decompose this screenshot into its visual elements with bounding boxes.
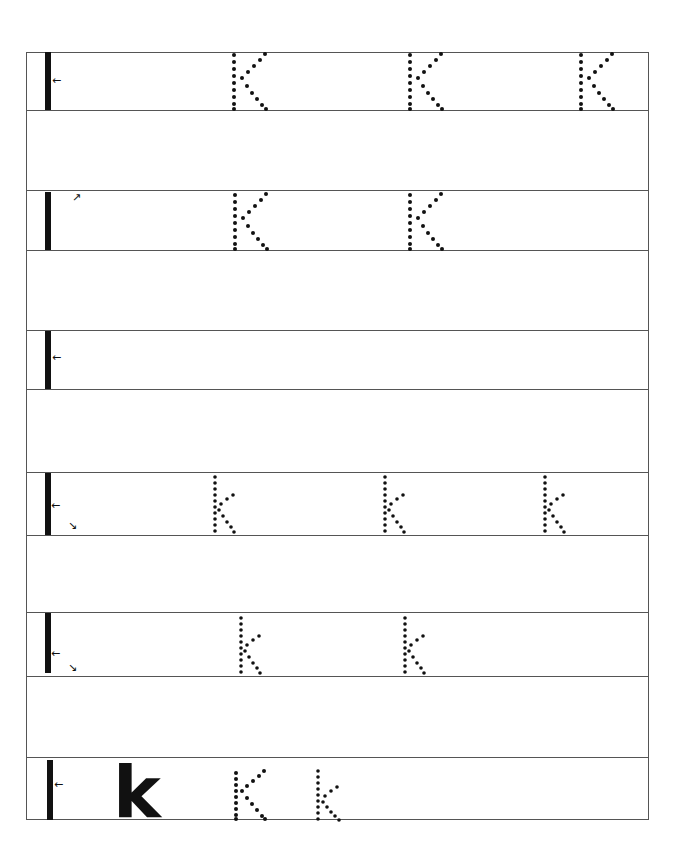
baseline-2 xyxy=(26,250,649,251)
topline-5 xyxy=(26,612,649,613)
topline-3 xyxy=(26,330,649,331)
model-stroke-icon xyxy=(45,331,51,389)
baseline-5 xyxy=(26,676,649,677)
stroke-arrow-icon: ← xyxy=(54,779,63,790)
stroke-arrow-icon: ← xyxy=(51,648,60,659)
topline-2 xyxy=(26,190,649,191)
baseline-3 xyxy=(26,389,649,390)
dotted-lowercase-k-icon[interactable] xyxy=(540,475,580,537)
dotted-lowercase-k-icon[interactable] xyxy=(380,475,420,537)
stroke-arrow-icon: ← xyxy=(51,500,60,511)
model-stroke-icon xyxy=(45,192,51,250)
dotted-lowercase-k-icon[interactable] xyxy=(236,616,276,678)
dotted-uppercase-k-icon[interactable] xyxy=(225,52,275,110)
dotted-uppercase-k-icon[interactable] xyxy=(401,52,451,110)
dotted-uppercase-k-icon[interactable] xyxy=(226,192,276,250)
solid-lowercase-k: k xyxy=(113,756,161,828)
stroke-arrow-icon: ← xyxy=(52,75,61,86)
topline-4 xyxy=(26,472,649,473)
stroke-arrow-icon: ↘ xyxy=(68,520,77,531)
model-stroke-icon xyxy=(47,760,53,820)
dotted-uppercase-k-icon[interactable] xyxy=(572,52,622,110)
dotted-uppercase-k-icon[interactable] xyxy=(401,192,451,250)
stroke-arrow-icon: ← xyxy=(52,352,61,363)
stroke-arrow-icon: ↗ xyxy=(72,192,81,203)
worksheet-frame xyxy=(26,52,649,820)
dotted-uppercase-k-icon[interactable] xyxy=(228,767,278,825)
dotted-lowercase-k-icon[interactable] xyxy=(400,616,440,678)
model-stroke-icon xyxy=(45,52,51,110)
stroke-arrow-icon: ↘ xyxy=(68,662,77,673)
dotted-lowercase-k-icon[interactable] xyxy=(210,475,250,537)
baseline-1 xyxy=(26,110,649,111)
model-stroke-icon xyxy=(45,613,51,673)
dotted-lowercase-k-icon[interactable] xyxy=(313,767,353,825)
